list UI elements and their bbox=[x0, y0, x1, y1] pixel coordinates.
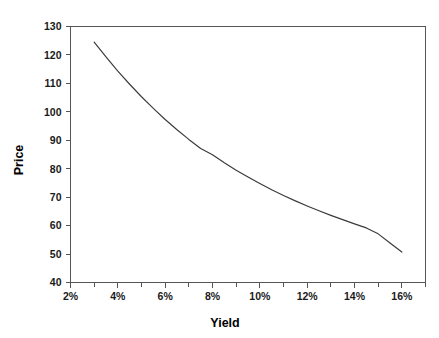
y-tick-label: 120 bbox=[44, 49, 62, 61]
x-tick-label: 4% bbox=[110, 290, 126, 302]
y-axis-ticks bbox=[66, 27, 71, 283]
chart-canvas: 405060708090100110120130 2%4%6%8%10%12%1… bbox=[0, 0, 439, 338]
x-tick-label: 14% bbox=[344, 290, 366, 302]
x-tick-label: 8% bbox=[205, 290, 221, 302]
price-yield-chart: 405060708090100110120130 2%4%6%8%10%12%1… bbox=[0, 0, 439, 338]
y-tick-label: 80 bbox=[50, 163, 62, 175]
x-tick-label: 12% bbox=[297, 290, 319, 302]
y-axis-title: Price bbox=[12, 145, 26, 176]
x-tick-label: 6% bbox=[158, 290, 174, 302]
x-axis-title: Yield bbox=[210, 316, 239, 330]
y-tick-label: 130 bbox=[44, 20, 62, 32]
y-tick-label: 110 bbox=[45, 77, 62, 89]
x-tick-label: 2% bbox=[63, 290, 79, 302]
plot-area-border bbox=[71, 27, 426, 283]
y-tick-label: 40 bbox=[50, 276, 62, 288]
y-tick-label: 70 bbox=[50, 191, 62, 203]
x-tick-label: 10% bbox=[249, 290, 271, 302]
x-tick-label: 16% bbox=[391, 290, 413, 302]
y-axis-tick-labels: 405060708090100110120130 bbox=[44, 20, 62, 288]
y-tick-label: 100 bbox=[44, 106, 62, 118]
x-axis-tick-labels: 2%4%6%8%10%12%14%16% bbox=[63, 290, 413, 302]
y-tick-label: 90 bbox=[50, 134, 62, 146]
y-tick-label: 50 bbox=[50, 248, 62, 260]
price-yield-curve bbox=[94, 42, 402, 252]
y-tick-label: 60 bbox=[50, 219, 62, 231]
